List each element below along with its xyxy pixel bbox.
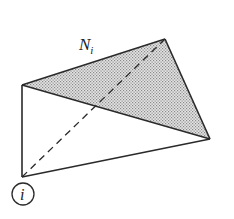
vertex-label: i: [20, 186, 24, 203]
edge-bottomleft-right: [22, 139, 210, 177]
tetrahedron-diagram: Ni i: [0, 0, 234, 219]
face-label: Ni: [78, 35, 93, 56]
